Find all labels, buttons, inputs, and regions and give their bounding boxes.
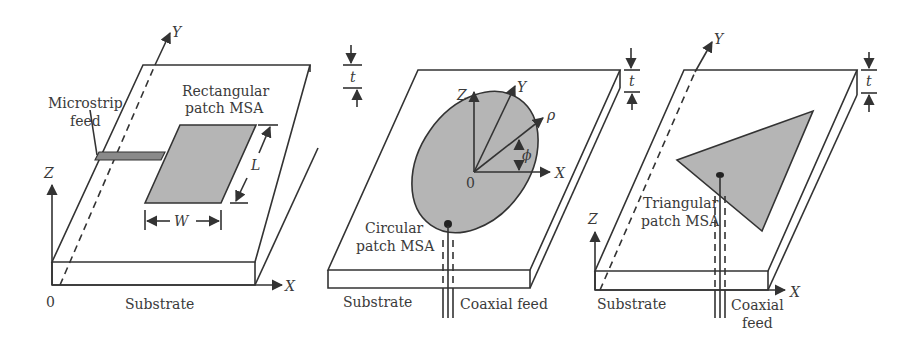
coax-feed-label-line2: feed bbox=[742, 315, 773, 331]
microstrip-feed-line bbox=[95, 152, 165, 160]
substrate-label: Substrate bbox=[343, 294, 412, 310]
coax-feed-label: Coaxial feed bbox=[460, 296, 548, 312]
substrate-label: Substrate bbox=[125, 296, 194, 312]
panel-triangular: Y Z X Triangular patch MSA Substrate Coa… bbox=[587, 31, 857, 331]
axis-y-label: Y bbox=[714, 31, 725, 47]
coax-feed-label-line1: Coaxial bbox=[731, 297, 784, 313]
axis-z-label: Z bbox=[587, 211, 598, 227]
substrate-front-face bbox=[328, 270, 530, 288]
thickness-dimension-3: t bbox=[861, 52, 877, 112]
panel-rectangular: Y Z X 0 Substrate Microstrip feed Rectan… bbox=[43, 24, 318, 312]
substrate-front-face bbox=[595, 271, 768, 290]
patch-label-line2: patch MSA bbox=[641, 213, 720, 229]
thickness-label: t bbox=[350, 69, 356, 85]
thickness-label: t bbox=[866, 73, 872, 89]
axis-x-label: X bbox=[284, 278, 296, 294]
thickness-label: t bbox=[629, 73, 635, 89]
axis-y-label: Y bbox=[172, 24, 183, 40]
patch-label-line1: Rectangular bbox=[182, 83, 269, 99]
feed-label-line1: Microstrip bbox=[48, 95, 123, 111]
axis-y-label: Y bbox=[517, 79, 528, 95]
thickness-dimension-1: t bbox=[343, 45, 362, 107]
axis-x-label: X bbox=[789, 284, 801, 300]
origin-label: 0 bbox=[46, 294, 55, 310]
origin-label: 0 bbox=[466, 175, 475, 191]
phi-label: ϕ bbox=[522, 147, 532, 163]
y-axis-arrow bbox=[695, 42, 712, 72]
thickness-dimension-2: t bbox=[624, 48, 640, 110]
axis-x-label: X bbox=[554, 165, 566, 181]
y-axis-dashed bbox=[600, 72, 695, 290]
patch-label-line1: Triangular bbox=[643, 195, 719, 211]
substrate-side-face bbox=[255, 148, 318, 285]
length-dimension bbox=[259, 127, 270, 153]
substrate-label: Substrate bbox=[597, 296, 666, 312]
rectangular-patch bbox=[145, 125, 256, 203]
panel-circular: Z Y ρ X ϕ 0 Circular patch MSA Substrate… bbox=[328, 67, 620, 318]
patch-label-line2: patch MSA bbox=[185, 100, 264, 116]
patch-label-line1: Circular bbox=[365, 220, 424, 236]
substrate-front-face bbox=[52, 262, 255, 285]
width-label: W bbox=[174, 213, 190, 229]
rho-label: ρ bbox=[546, 107, 556, 123]
y-axis-arrow bbox=[155, 33, 170, 65]
length-label: L bbox=[250, 157, 260, 173]
axis-z-label: Z bbox=[456, 87, 467, 103]
patch-label-line2: patch MSA bbox=[356, 238, 435, 254]
axis-z-label: Z bbox=[43, 165, 54, 181]
microstrip-antenna-diagram: Y Z X 0 Substrate Microstrip feed Rectan… bbox=[0, 0, 921, 342]
feed-label-line2: feed bbox=[70, 113, 101, 129]
